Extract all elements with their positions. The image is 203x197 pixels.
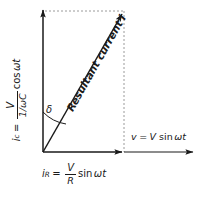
v-amplitude: V <box>150 132 157 142</box>
ic-symbol: i <box>12 139 22 142</box>
v-argument: ωt <box>174 132 186 142</box>
ir-numerator: V <box>65 163 76 174</box>
ir-denominator: R <box>65 176 76 186</box>
ir-argument: ωt <box>94 169 106 179</box>
ic-function: cos <box>12 73 22 90</box>
ir-subscript: R <box>45 171 50 178</box>
angle-label-delta: δ <box>46 105 52 115</box>
phasor-diagram-figure: ic = V 1/ωC cos ωt iR = V R sin ωt v = V… <box>0 0 203 197</box>
ic-argument: ωt <box>12 59 22 71</box>
v-symbol: v <box>131 132 137 142</box>
ic-denominator: 1/ωC <box>18 91 28 119</box>
v-function: sin <box>159 132 173 142</box>
ic-equals: = <box>12 124 22 132</box>
ic-numerator: V <box>6 100 17 111</box>
v-equals: = <box>139 132 147 142</box>
ir-fraction: V R <box>65 163 76 185</box>
ir-equals: = <box>52 169 60 179</box>
voltage-label: v = V sin ωt <box>131 132 186 142</box>
ic-fraction: V 1/ωC <box>6 91 28 119</box>
resistive-current-label: iR = V R sin ωt <box>42 163 106 185</box>
ic-subscript: c <box>13 135 20 139</box>
ir-function: sin <box>78 169 92 179</box>
capacitive-current-label: ic = V 1/ωC cos ωt <box>6 37 28 163</box>
